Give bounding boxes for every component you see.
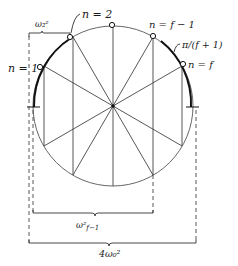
label-nf1: n = f − 1 — [149, 19, 195, 30]
mode-circle-diagram: n = 1 n = 2 n = f − 1 π/(f + 1) n = f ω₂… — [0, 0, 238, 266]
leader-n2 — [71, 14, 80, 33]
brace-omega-f1 — [33, 210, 153, 216]
arc-left — [34, 38, 71, 107]
point-nf — [180, 61, 185, 66]
label-nf: n = f — [188, 59, 215, 70]
leader-angle — [174, 44, 180, 52]
point-top — [109, 22, 114, 27]
label-n1: n = 1 — [8, 62, 38, 75]
label-omega2: ω₂² — [35, 19, 49, 29]
brace-4omega — [29, 240, 196, 246]
brace-omega2 — [29, 31, 70, 37]
center-point — [111, 104, 115, 108]
point-nf1 — [150, 33, 155, 38]
label-4omega: 4ω₀² — [98, 248, 121, 259]
label-angle: π/(f + 1) — [181, 39, 223, 50]
label-n2: n = 2 — [82, 8, 112, 21]
label-omega-f1: ω²f−1 — [76, 220, 99, 232]
point-n2 — [67, 34, 72, 39]
